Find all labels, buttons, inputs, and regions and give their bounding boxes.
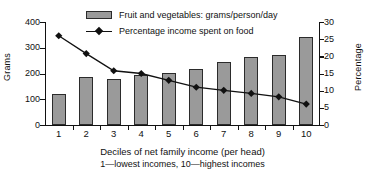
x-axis-ticklabel: 2 <box>73 128 99 139</box>
y-axis-right-ticklabel: 20 <box>324 52 348 61</box>
line-marker-diamond <box>220 87 227 94</box>
x-axis-ticklabel: 4 <box>128 128 154 139</box>
line-series <box>45 22 320 125</box>
y-axis-left-title: Grams <box>2 44 12 90</box>
y-axis-left-ticklabel: 200 <box>14 69 40 78</box>
y-axis-left-ticklabel: 0 <box>14 121 40 130</box>
line-marker-diamond <box>55 32 62 39</box>
line-path <box>59 36 307 104</box>
x-axis-ticklabel: 8 <box>238 128 264 139</box>
line-marker-diamond <box>303 100 310 107</box>
x-axis-ticklabel: 3 <box>101 128 127 139</box>
y-axis-left-ticklabel: 300 <box>14 43 40 52</box>
y-axis-right-ticklabel: 10 <box>324 86 348 95</box>
legend-label-bars: Fruit and vegetables: grams/person/day <box>119 10 278 20</box>
chart-container: Fruit and vegetables: grams/person/day P… <box>0 0 365 183</box>
line-marker-diamond <box>110 67 117 74</box>
y-axis-right-ticklabel: 15 <box>324 69 348 78</box>
y-axis-right-title: Percentage <box>353 38 363 96</box>
x-axis-ticklabel: 6 <box>183 128 209 139</box>
line-marker-diamond <box>248 90 255 97</box>
x-axis-ticklabel: 1 <box>46 128 72 139</box>
line-marker-diamond <box>83 50 90 57</box>
x-axis-ticklabel: 5 <box>156 128 182 139</box>
line-marker-diamond <box>193 84 200 91</box>
x-axis-ticklabel: 10 <box>293 128 319 139</box>
y-axis-right-ticklabel: 30 <box>324 18 348 27</box>
y-axis-left-tickmark <box>40 125 45 126</box>
y-axis-right-ticklabel: 5 <box>324 103 348 112</box>
y-axis-left-ticklabel: 400 <box>14 18 40 27</box>
y-axis-right-tickmark <box>319 125 324 126</box>
line-marker-diamond <box>138 70 145 77</box>
x-axis-title: Deciles of net family income (per head) <box>0 146 365 157</box>
line-marker-diamond <box>275 93 282 100</box>
legend-item-bars: Fruit and vegetables: grams/person/day <box>86 8 278 22</box>
x-axis-ticklabel: 7 <box>211 128 237 139</box>
legend-bar-swatch-icon <box>86 11 112 19</box>
plot-area <box>45 22 320 125</box>
y-axis-right-ticklabel: 0 <box>324 121 348 130</box>
line-marker-diamond <box>165 77 172 84</box>
x-axis-subtitle: 1—lowest incomes, 10—highest incomes <box>0 159 365 169</box>
y-axis-right-ticklabel: 25 <box>324 35 348 44</box>
x-axis-ticklabel: 9 <box>266 128 292 139</box>
y-axis-left-ticklabel: 100 <box>14 95 40 104</box>
